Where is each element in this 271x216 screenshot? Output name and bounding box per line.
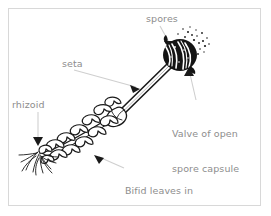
label-bifid-line-1: Bifid leaves in [125,185,193,197]
label-spores: spores [146,13,178,25]
label-bifid-leaves-in-three-rows: Bifid leaves in three rows [125,162,193,216]
bifid-leaves [39,97,121,163]
liverwort-diagram-figure: spores seta rhizoid Valve of open spore … [0,0,271,216]
arrowhead-bifid [94,155,104,164]
label-seta: seta [62,58,83,70]
label-rhizoid: rhizoid [12,99,45,111]
seta-stalk [120,64,171,114]
leader-line-seta [74,70,136,87]
leader-line-valve [190,74,196,100]
label-valve-line-1: Valve of open [172,128,239,140]
